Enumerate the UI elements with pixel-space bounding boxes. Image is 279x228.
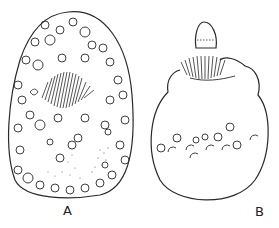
panel-label-a: A	[63, 203, 72, 218]
panel-a-stipple	[48, 147, 109, 178]
panel-b-drawing	[151, 22, 268, 200]
panel-a-drawing	[9, 12, 134, 198]
illustration	[0, 0, 279, 228]
panel-label-b: B	[255, 204, 264, 219]
figure: A B	[0, 0, 279, 228]
